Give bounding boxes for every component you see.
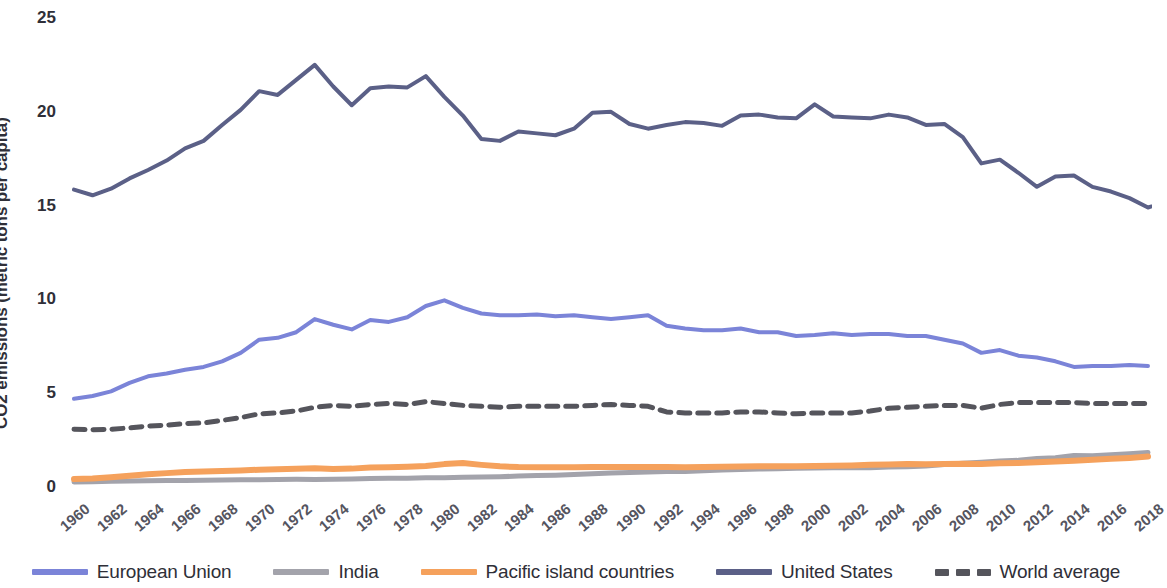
legend-swatch-icon (32, 569, 88, 575)
legend-item-label: World average (1000, 561, 1121, 583)
series-line-european-union (74, 300, 1148, 398)
legend-item-label: European Union (97, 561, 232, 583)
legend-item-label: Pacific island countries (486, 561, 674, 583)
legend-swatch-icon (273, 569, 329, 575)
legend-swatch-icon (716, 569, 772, 575)
series-line-united-states (74, 65, 1152, 208)
legend-swatch-icon (935, 569, 991, 576)
legend-item-united-states[interactable]: United States (716, 561, 892, 583)
legend-swatch-icon (421, 569, 477, 575)
legend-item-label: United States (781, 561, 892, 583)
legend-item-india[interactable]: India (273, 561, 378, 583)
legend-item-pacific-island-countries[interactable]: Pacific island countries (421, 561, 674, 583)
legend-item-label: India (338, 561, 378, 583)
chart-legend: European UnionIndiaPacific island countr… (0, 556, 1152, 588)
legend-item-world-average[interactable]: World average (935, 561, 1121, 583)
legend-item-european-union[interactable]: European Union (32, 561, 232, 583)
series-line-world-average (74, 402, 1148, 430)
